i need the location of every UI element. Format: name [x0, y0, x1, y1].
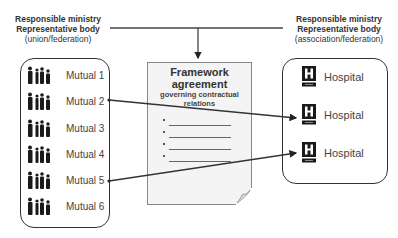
- document-title-line1: Framework: [148, 66, 251, 78]
- bullet-dot: [163, 143, 165, 145]
- document-title-line2: agreement: [148, 78, 251, 90]
- family-icon: [26, 145, 52, 163]
- family-icon: [26, 92, 52, 110]
- bullet-dot: [163, 131, 165, 133]
- document-subtitle-line2: relations: [148, 99, 251, 108]
- mutual-label: Mutual 2: [66, 96, 104, 107]
- hospital-icon: [302, 104, 316, 125]
- right-header-line3: (association/federation): [283, 34, 395, 44]
- family-icon: [26, 171, 52, 189]
- mutual-label: Mutual 4: [66, 149, 104, 160]
- framework-agreement-document: Framework agreement governing contractua…: [147, 62, 252, 205]
- hospital-item: Hospital: [302, 142, 364, 163]
- hospital-item: Hospital: [302, 104, 364, 125]
- bullet-dot: [163, 119, 165, 121]
- mutual-label: Mutual 6: [66, 201, 104, 212]
- mutual-item: Mutual 2: [26, 92, 104, 110]
- bullet-line: [169, 125, 231, 126]
- right-header-line1: Responsible ministry: [283, 14, 395, 24]
- document-subtitle-line1: governing contractual: [148, 90, 251, 99]
- page-curl-icon: [236, 188, 252, 205]
- hospital-label: Hospital: [324, 147, 364, 159]
- mutual-label: Mutual 3: [66, 123, 104, 134]
- right-header-line2: Representative body: [283, 24, 395, 34]
- hospital-icon: [302, 66, 316, 87]
- bullet-line: [169, 161, 231, 162]
- right-header: Responsible ministry Representative body…: [283, 14, 395, 44]
- mutual-item: Mutual 3: [26, 119, 104, 137]
- family-icon: [26, 119, 52, 137]
- mutual-item: Mutual 5: [26, 171, 104, 189]
- bullet-line: [169, 149, 231, 150]
- left-header-line1: Responsible ministry: [8, 14, 108, 24]
- hospital-label: Hospital: [324, 71, 364, 83]
- hospital-item: Hospital: [302, 66, 364, 87]
- left-header: Responsible ministry Representative body…: [8, 14, 108, 44]
- left-header-line2: Representative body: [8, 24, 108, 34]
- mutual-item: Mutual 1: [26, 66, 104, 84]
- family-icon: [26, 66, 52, 84]
- mutual-label: Mutual 5: [66, 175, 104, 186]
- left-header-line3: (union/federation): [8, 34, 108, 44]
- mutual-item: Mutual 4: [26, 145, 104, 163]
- hospital-label: Hospital: [324, 109, 364, 121]
- mutual-item: Mutual 6: [26, 197, 104, 215]
- bullet-line: [169, 137, 231, 138]
- bullet-dot: [163, 155, 165, 157]
- hospital-icon: [302, 142, 316, 163]
- family-icon: [26, 197, 52, 215]
- mutual-label: Mutual 1: [66, 70, 104, 81]
